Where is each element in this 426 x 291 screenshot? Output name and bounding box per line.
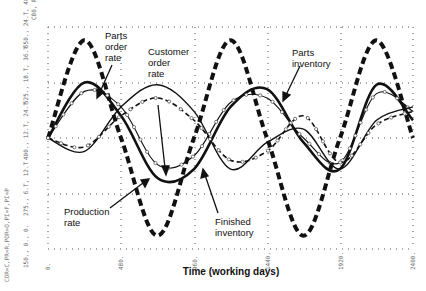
data-marker bbox=[132, 126, 135, 129]
data-marker bbox=[154, 161, 157, 164]
y-tick: 400., 12.T, 24.T bbox=[22, 102, 29, 160]
data-marker bbox=[371, 96, 374, 99]
data-marker bbox=[390, 116, 393, 119]
data-marker bbox=[321, 140, 324, 143]
data-marker bbox=[190, 117, 193, 120]
data-marker bbox=[317, 153, 320, 156]
data-marker bbox=[139, 138, 142, 141]
label-line: order bbox=[105, 41, 127, 52]
data-marker bbox=[200, 144, 203, 147]
data-marker bbox=[294, 117, 297, 120]
label-line: inventory bbox=[215, 227, 254, 238]
data-marker bbox=[403, 112, 406, 115]
y-tick: 275., 6.T, 12.T bbox=[22, 162, 29, 216]
data-marker bbox=[377, 122, 380, 125]
label-line: Customer bbox=[148, 46, 189, 57]
data-marker bbox=[367, 131, 370, 134]
label-line: Finished bbox=[215, 216, 254, 227]
data-marker bbox=[276, 139, 279, 142]
data-marker bbox=[180, 163, 183, 166]
data-marker bbox=[396, 97, 399, 100]
data-marker bbox=[359, 143, 362, 146]
data-marker bbox=[70, 102, 73, 105]
data-marker bbox=[208, 138, 211, 141]
data-marker bbox=[383, 90, 386, 93]
data-marker bbox=[191, 155, 194, 158]
data-marker bbox=[354, 134, 357, 137]
annotation-arrows bbox=[97, 65, 300, 213]
data-marker bbox=[284, 128, 287, 131]
data-marker bbox=[107, 125, 110, 128]
data-marker bbox=[73, 146, 76, 149]
label-customer-order-rate: Customer order rate bbox=[148, 46, 189, 79]
series-customer-order-rate bbox=[48, 90, 413, 168]
data-marker bbox=[222, 108, 225, 111]
data-marker bbox=[200, 126, 203, 129]
data-marker bbox=[339, 161, 342, 164]
data-marker bbox=[86, 144, 89, 147]
label-production-rate: Production rate bbox=[64, 206, 109, 228]
data-marker bbox=[315, 128, 318, 131]
data-marker bbox=[179, 108, 182, 111]
data-marker bbox=[93, 88, 96, 91]
data-marker bbox=[167, 100, 170, 103]
label-line: rate bbox=[148, 68, 189, 79]
data-marker bbox=[298, 132, 301, 135]
label-line: Parts bbox=[292, 47, 331, 58]
data-marker bbox=[97, 135, 100, 138]
data-marker bbox=[350, 154, 353, 157]
data-marker bbox=[259, 94, 262, 97]
y-tick-top-extra: C80, P, F bbox=[30, 0, 37, 20]
data-marker bbox=[306, 116, 309, 119]
label-line: order bbox=[148, 57, 189, 68]
data-marker bbox=[129, 108, 132, 111]
y-tick: 150., 0., 0. bbox=[22, 225, 29, 268]
chart-canvas bbox=[0, 0, 426, 291]
data-marker bbox=[241, 160, 244, 163]
label-finished-inventory: Finished inventory bbox=[215, 216, 254, 238]
data-marker bbox=[117, 103, 120, 106]
x-tick: 480. bbox=[117, 256, 124, 270]
x-tick: 1440. bbox=[264, 252, 271, 270]
data-marker bbox=[62, 113, 65, 116]
data-marker bbox=[359, 121, 362, 124]
data-marker bbox=[106, 94, 109, 97]
label-line: rate bbox=[64, 217, 109, 228]
x-axis-label: Time (working days) bbox=[0, 266, 426, 277]
x-tick: 1920. bbox=[337, 252, 344, 270]
label-line: Production bbox=[64, 206, 109, 217]
data-marker bbox=[217, 149, 220, 152]
data-marker bbox=[271, 100, 274, 103]
data-marker bbox=[245, 93, 248, 96]
variable-key: COR=C,PR=R,POR=O,PI=F,PI=P bbox=[3, 188, 10, 282]
data-marker bbox=[227, 158, 230, 161]
data-marker bbox=[215, 120, 218, 123]
data-marker bbox=[308, 142, 311, 145]
data-marker bbox=[126, 113, 129, 116]
x-tick: 0. bbox=[44, 263, 51, 270]
data-marker bbox=[80, 92, 83, 95]
data-marker bbox=[266, 149, 269, 152]
data-marker bbox=[146, 150, 149, 153]
label-line: rate bbox=[105, 52, 127, 63]
data-marker bbox=[117, 116, 120, 119]
label-parts-inventory: Parts inventory bbox=[292, 47, 331, 69]
data-marker bbox=[348, 147, 351, 150]
data-marker bbox=[46, 136, 49, 139]
y-tick: 650., 24.T, 48.T bbox=[22, 0, 29, 48]
x-tick: 960. bbox=[191, 256, 198, 270]
label-parts-order-rate: Parts order rate bbox=[105, 30, 127, 63]
data-marker bbox=[54, 125, 57, 128]
data-marker bbox=[280, 110, 283, 113]
data-marker bbox=[254, 156, 257, 159]
label-line: inventory bbox=[292, 58, 331, 69]
data-marker bbox=[59, 142, 62, 145]
data-marker bbox=[364, 108, 367, 111]
data-marker bbox=[141, 100, 144, 103]
x-tick: 2400. bbox=[409, 252, 416, 270]
data-marker bbox=[328, 152, 331, 155]
label-line: Parts bbox=[105, 30, 127, 41]
data-marker bbox=[232, 99, 235, 102]
y-tick: 525., 18.T, 36.T bbox=[22, 46, 29, 104]
data-marker bbox=[154, 96, 157, 99]
